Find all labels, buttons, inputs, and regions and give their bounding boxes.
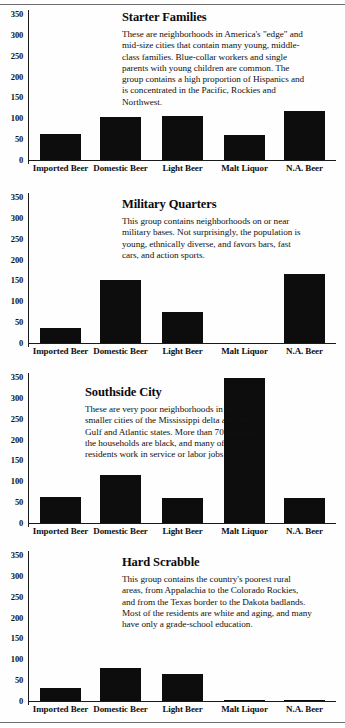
bar	[100, 475, 141, 523]
y-axis-tick-label: 250	[11, 234, 23, 243]
x-axis-line	[28, 160, 336, 161]
chart-callout: Military QuartersThis group contains nei…	[122, 197, 302, 261]
x-axis-labels: Imported BeerDomestic BeerLight BeerMalt…	[28, 525, 340, 539]
bar	[162, 498, 203, 523]
y-axis-tick-label: 50	[15, 135, 23, 144]
y-axis-tick-label: 150	[11, 634, 23, 643]
y-axis-tick-label: 250	[11, 51, 23, 60]
bar	[284, 111, 325, 160]
x-axis-line	[28, 523, 336, 524]
bar	[284, 498, 325, 523]
y-axis-tick-label: 150	[11, 276, 23, 285]
bar	[162, 116, 203, 160]
chart-title: Starter Families	[122, 10, 312, 24]
x-axis-tick-label: N.A. Beer	[265, 525, 345, 537]
y-axis-tick-label: 200	[11, 435, 23, 444]
y-axis-tick-label: 50	[15, 676, 23, 685]
y-axis-tick-label: 150	[11, 456, 23, 465]
y-axis-tick-label: 250	[11, 592, 23, 601]
chart-annotation: These are very poor neighborhoods in the…	[85, 404, 265, 460]
y-axis-tick-label: 350	[11, 373, 23, 382]
y-axis-tick-label: 100	[11, 114, 23, 123]
x-axis-line	[28, 343, 336, 344]
chart-callout: Southside CityThese are very poor neighb…	[85, 385, 265, 460]
chart-annotation: This group contains neighborhoods on or …	[122, 216, 302, 261]
y-axis-tick-label: 300	[11, 214, 23, 223]
y-axis-tick-label: 350	[11, 551, 23, 560]
x-axis-tick-label: N.A. Beer	[265, 162, 345, 174]
y-axis-tick-label: 200	[11, 613, 23, 622]
y-axis-tick-label: 300	[11, 31, 23, 40]
bar	[162, 674, 203, 701]
y-axis-tick-label: 300	[11, 394, 23, 403]
bar	[284, 274, 325, 343]
top-divider-rule	[0, 4, 345, 5]
chart-title: Military Quarters	[122, 197, 302, 211]
bar	[284, 700, 325, 701]
y-axis-tick-label: 50	[15, 318, 23, 327]
y-axis-tick-label: 200	[11, 72, 23, 81]
x-axis-tick-label: N.A. Beer	[265, 703, 345, 715]
chart-callout: Hard ScrabbleThis group contains the cou…	[122, 555, 312, 630]
bar	[100, 668, 141, 701]
bar	[40, 688, 81, 701]
chart-title: Hard Scrabble	[122, 555, 312, 569]
bar	[40, 328, 81, 343]
chart-panel-1: 050100150200250300350Imported BeerDomest…	[0, 189, 345, 372]
bar	[162, 312, 203, 343]
chart-panel-2: 050100150200250300350Imported BeerDomest…	[0, 369, 345, 552]
x-axis-line	[28, 701, 336, 702]
chart-callout: Starter FamiliesThese are neighborhoods …	[122, 10, 312, 108]
y-axis-tick-label: 350	[11, 193, 23, 202]
y-axis-tick-label: 300	[11, 572, 23, 581]
y-axis-tick-label: 250	[11, 414, 23, 423]
chart-title: Southside City	[85, 385, 265, 399]
bar	[40, 134, 81, 160]
x-axis-tick-label: N.A. Beer	[265, 345, 345, 357]
y-axis-tick-label: 150	[11, 93, 23, 102]
y-axis-tick-label: 100	[11, 477, 23, 486]
y-axis-tick-label: 100	[11, 655, 23, 664]
y-axis-tick-label: 50	[15, 498, 23, 507]
bar	[100, 280, 141, 343]
bar	[224, 700, 265, 701]
x-axis-labels: Imported BeerDomestic BeerLight BeerMalt…	[28, 345, 340, 359]
chart-annotation: These are neighborhoods in America's "ed…	[122, 29, 312, 108]
y-axis-tick-label: 350	[11, 10, 23, 19]
bar	[100, 117, 141, 160]
x-axis-labels: Imported BeerDomestic BeerLight BeerMalt…	[28, 703, 340, 717]
chart-annotation: This group contains the country's poores…	[122, 574, 312, 630]
bar	[40, 497, 81, 523]
page-root: 050100150200250300350Imported BeerDomest…	[0, 0, 345, 728]
bottom-divider-rule	[0, 722, 345, 723]
chart-panel-3: 050100150200250300350Imported BeerDomest…	[0, 547, 345, 728]
chart-panel-0: 050100150200250300350Imported BeerDomest…	[0, 6, 345, 189]
y-axis-tick-label: 200	[11, 255, 23, 264]
bar	[224, 135, 265, 160]
y-axis-tick-label: 100	[11, 297, 23, 306]
x-axis-labels: Imported BeerDomestic BeerLight BeerMalt…	[28, 162, 340, 176]
